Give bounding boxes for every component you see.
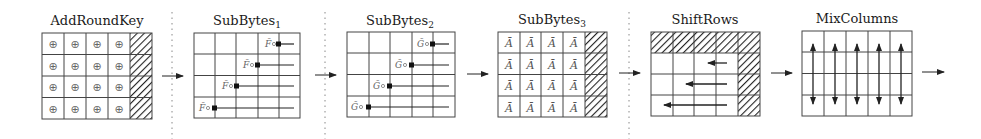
row-function-arrows: G̃ G̃ G̃ G̃ xyxy=(351,38,449,112)
stage-title: MixColumns xyxy=(816,11,898,26)
svg-text:Ā: Ā xyxy=(504,80,513,93)
svg-text:Ā: Ā xyxy=(547,80,556,93)
hatched-column xyxy=(738,53,760,116)
svg-text:Ā: Ā xyxy=(569,37,578,50)
svg-text:G̃: G̃ xyxy=(417,38,424,49)
stage-addroundkey: AddRoundKey ⊕ ⊕ ⊕ ⊕ ⊕ ⊕ ⊕ ⊕ ⊕ ⊕ ⊕ ⊕ ⊕ ⊕ … xyxy=(42,13,152,119)
svg-text:Ā: Ā xyxy=(547,59,556,72)
svg-text:Ā: Ā xyxy=(526,37,535,50)
svg-text:⊕: ⊕ xyxy=(114,81,123,94)
stage-subbytes3: SubBytes3 Ā Ā Ā Ā Ā Ā Ā Ā Ā Ā Ā Ā Ā Ā Ā … xyxy=(498,12,607,117)
svg-text:⊕: ⊕ xyxy=(48,38,57,51)
svg-text:⊕: ⊕ xyxy=(92,38,101,51)
stage-mixcolumns: MixColumns xyxy=(802,11,912,116)
svg-text:⊕: ⊕ xyxy=(70,38,79,51)
stage-title: SubBytes1 xyxy=(213,13,281,30)
svg-text:⊕: ⊕ xyxy=(48,81,57,94)
svg-text:Ā: Ā xyxy=(504,59,513,72)
svg-text:Ā: Ā xyxy=(526,80,535,93)
hatched-row xyxy=(651,32,760,53)
svg-text:⊕: ⊕ xyxy=(48,103,57,116)
svg-text:⊕: ⊕ xyxy=(92,60,101,73)
svg-text:F̄: F̄ xyxy=(264,38,272,49)
stage-title: ShiftRows xyxy=(672,12,739,27)
stage-subbytes2: SubBytes2 G̃ G̃ G̃ G̃ xyxy=(347,13,455,117)
svg-text:Ā: Ā xyxy=(504,37,513,50)
svg-text:F̄: F̄ xyxy=(242,59,250,70)
svg-text:⊕: ⊕ xyxy=(48,60,57,73)
svg-text:Ā: Ā xyxy=(547,102,556,115)
svg-text:Ā: Ā xyxy=(569,102,578,115)
svg-text:⊕: ⊕ xyxy=(70,60,79,73)
svg-text:Ā: Ā xyxy=(547,37,556,50)
svg-text:Ā: Ā xyxy=(526,102,535,115)
svg-text:G̃: G̃ xyxy=(373,80,380,91)
svg-text:⊕: ⊕ xyxy=(114,38,123,51)
stage-shiftrows: ShiftRows xyxy=(651,12,760,116)
aes-round-diagram: AddRoundKey ⊕ ⊕ ⊕ ⊕ ⊕ ⊕ ⊕ ⊕ ⊕ ⊕ ⊕ ⊕ ⊕ ⊕ … xyxy=(0,0,981,139)
svg-text:⊕: ⊕ xyxy=(92,103,101,116)
svg-text:⊕: ⊕ xyxy=(70,103,79,116)
svg-text:F̄: F̄ xyxy=(198,102,206,113)
svg-text:Ā: Ā xyxy=(569,80,578,93)
svg-text:Ā: Ā xyxy=(526,59,535,72)
svg-text:G̃: G̃ xyxy=(351,101,358,112)
state-grid xyxy=(194,33,300,118)
svg-text:Ā: Ā xyxy=(569,59,578,72)
state-grid xyxy=(347,32,455,117)
stage-subbytes1: SubBytes1 F̄ F̄ F̄ F̄ xyxy=(194,13,300,118)
svg-text:⊕: ⊕ xyxy=(114,60,123,73)
svg-text:F̄: F̄ xyxy=(221,80,229,91)
svg-text:G̃: G̃ xyxy=(395,59,402,70)
stage-title: AddRoundKey xyxy=(49,13,144,28)
stage-title: SubBytes2 xyxy=(366,13,434,30)
svg-text:⊕: ⊕ xyxy=(70,81,79,94)
stage-title: SubBytes3 xyxy=(518,12,586,29)
svg-text:Ā: Ā xyxy=(504,102,513,115)
svg-text:⊕: ⊕ xyxy=(92,81,101,94)
svg-text:⊕: ⊕ xyxy=(114,103,123,116)
